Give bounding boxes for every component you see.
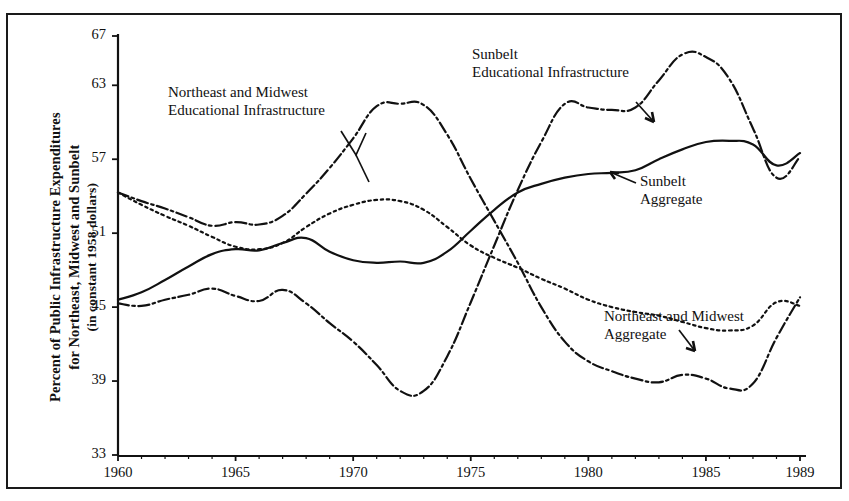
x-tick-label: 1965 — [210, 464, 262, 481]
y-tick-label: 33 — [80, 445, 106, 462]
x-tick-label: 1989 — [774, 464, 826, 481]
leader-ne-mw-edu — [341, 131, 366, 155]
annotation-ne-mw-agg-line-1: Northeast and Midwest — [604, 308, 744, 326]
y-tick-label: 67 — [80, 26, 106, 43]
y-tick-label: 51 — [80, 223, 106, 240]
x-tick-label: 1975 — [445, 464, 497, 481]
annotation-ne-mw-edu: Northeast and Midwest Educational Infras… — [168, 84, 325, 119]
series-line-2 — [118, 140, 800, 299]
x-tick-label: 1980 — [562, 464, 614, 481]
annotation-sunbelt-edu-line-1: Sunbelt — [472, 46, 629, 64]
y-tick-label: 39 — [80, 371, 106, 388]
annotation-ne-mw-agg: Northeast and Midwest Aggregate — [604, 308, 744, 343]
x-tick-label: 1985 — [680, 464, 732, 481]
annotation-sunbelt-agg-line-2: Aggregate — [640, 191, 702, 209]
annotation-sunbelt-agg: Sunbelt Aggregate — [640, 173, 702, 208]
annotation-ne-mw-edu-line-1: Northeast and Midwest — [168, 84, 325, 102]
annotation-ne-mw-edu-line-2: Educational Infrastructure — [168, 102, 325, 120]
x-tick-label: 1960 — [92, 464, 144, 481]
annotation-sunbelt-agg-line-1: Sunbelt — [640, 173, 702, 191]
y-tick-label: 63 — [80, 75, 106, 92]
y-tick-label: 57 — [80, 149, 106, 166]
annotation-sunbelt-edu-line-2: Educational Infrastructure — [472, 64, 629, 82]
annotation-sunbelt-edu: Sunbelt Educational Infrastructure — [472, 46, 629, 81]
y-tick-label: 45 — [80, 297, 106, 314]
x-tick-label: 1970 — [327, 464, 379, 481]
leader-ne-mw-edu-stem — [356, 155, 369, 182]
line-chart-canvas — [0, 0, 849, 501]
annotation-ne-mw-agg-line-2: Aggregate — [604, 326, 744, 344]
